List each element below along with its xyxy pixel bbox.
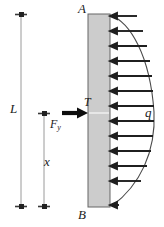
- load-arrow: [110, 148, 151, 154]
- label-support-b: B: [78, 208, 86, 221]
- label-distributed-load-q: q: [145, 106, 152, 119]
- label-length-l: L: [10, 102, 17, 115]
- point-load-arrow: [62, 108, 88, 119]
- load-arrow: [110, 73, 152, 79]
- load-arrow: [110, 133, 153, 139]
- label-tension-t: T: [84, 96, 91, 108]
- label-force-fy: Fy: [50, 118, 61, 132]
- load-arrow: [110, 88, 153, 94]
- load-arrow: [110, 28, 143, 34]
- load-arrow: [110, 43, 147, 49]
- label-force-subscript: y: [57, 123, 61, 132]
- load-arrow: [110, 13, 137, 19]
- load-arrow: [110, 178, 141, 184]
- load-arrow: [110, 163, 147, 169]
- beam-load-diagram: A B L x T q Fy: [0, 0, 164, 227]
- label-distance-x: x: [44, 155, 50, 168]
- diagram-canvas: [0, 0, 164, 227]
- label-support-a: A: [78, 2, 86, 15]
- load-arrow: [110, 202, 119, 208]
- beam-body: [88, 14, 110, 207]
